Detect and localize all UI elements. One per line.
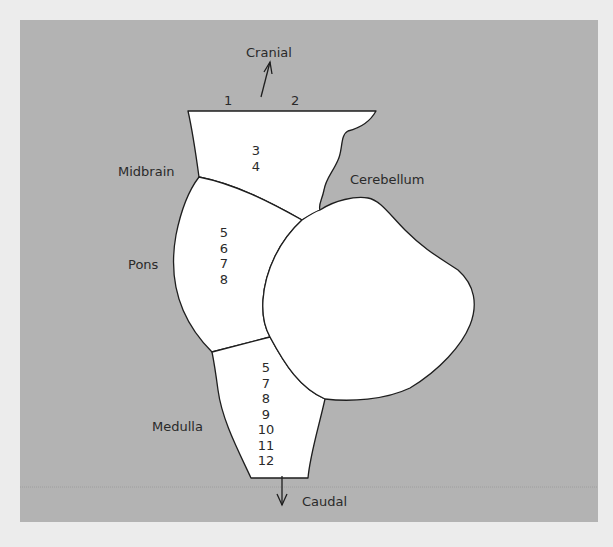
- medulla-nerve-list: 5 7 8 9 10 11 12: [254, 360, 278, 469]
- midbrain-nerve-list: 3 4: [249, 143, 263, 174]
- nerve-number: 5: [217, 225, 231, 241]
- nerve-number: 6: [217, 241, 231, 257]
- caudal-arrow-icon: [277, 476, 287, 505]
- nerve-number: 9: [254, 407, 278, 423]
- nerve-number: 5: [254, 360, 278, 376]
- nerve-number: 8: [217, 272, 231, 288]
- nerve-number: 11: [254, 438, 278, 454]
- nerve-number: 4: [249, 159, 263, 175]
- brainstem-diagram: [0, 0, 613, 547]
- nerve-2-label: 2: [291, 94, 299, 107]
- caudal-label: Caudal: [302, 495, 347, 508]
- nerve-1-label: 1: [224, 94, 232, 107]
- nerve-number: 12: [254, 453, 278, 469]
- nerve-number: 7: [217, 256, 231, 272]
- nerve-number: 8: [254, 391, 278, 407]
- cerebellum-region: [263, 198, 474, 401]
- cranial-label: Cranial: [246, 46, 292, 59]
- medulla-label: Medulla: [152, 420, 203, 433]
- nerve-number: 10: [254, 422, 278, 438]
- nerve-number: 7: [254, 376, 278, 392]
- cerebellum-label: Cerebellum: [350, 173, 425, 186]
- pons-label: Pons: [128, 258, 158, 271]
- cranial-arrow-icon: [261, 62, 272, 97]
- nerve-number: 3: [249, 143, 263, 159]
- midbrain-label: Midbrain: [118, 165, 175, 178]
- pons-nerve-list: 5 6 7 8: [217, 225, 231, 287]
